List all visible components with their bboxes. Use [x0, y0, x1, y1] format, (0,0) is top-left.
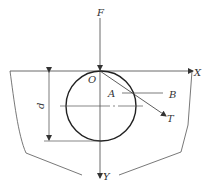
label-y: Y — [103, 171, 111, 182]
label-f: F — [96, 7, 105, 18]
label-o: O — [88, 74, 96, 85]
label-x: X — [193, 67, 202, 78]
label-a: A — [107, 88, 115, 99]
diagram-canvas: F O X Y A B T d — [0, 0, 204, 183]
label-b: B — [168, 89, 176, 100]
label-d: d — [35, 103, 46, 109]
label-t: T — [167, 113, 175, 124]
